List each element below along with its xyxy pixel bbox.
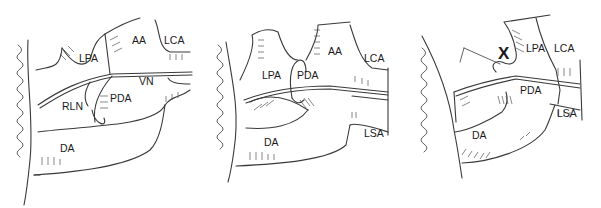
label-da: DA bbox=[60, 143, 75, 154]
label-aa: AA bbox=[328, 46, 342, 57]
label-lca: LCA bbox=[364, 53, 384, 64]
anatomy-sketch-3 bbox=[400, 0, 601, 208]
label-lpa: LPA bbox=[526, 43, 545, 54]
panel-2-illustration: AA LCA LPA PDA LSA DA bbox=[200, 0, 400, 208]
label-da: DA bbox=[472, 130, 487, 141]
anatomy-sketch-1 bbox=[0, 0, 200, 208]
label-aa: AA bbox=[132, 35, 146, 46]
label-rln: RLN bbox=[62, 101, 83, 112]
label-lca: LCA bbox=[164, 35, 184, 46]
label-lpa: LPA bbox=[79, 53, 98, 64]
label-lsa: LSA bbox=[557, 108, 577, 119]
panel-3-illustration: X LPA LCA PDA LSA DA bbox=[400, 0, 601, 208]
anatomy-sketch-2 bbox=[200, 0, 400, 208]
label-pda: PDA bbox=[297, 70, 319, 81]
label-lpa: LPA bbox=[262, 70, 281, 81]
panel-1-illustration: AA LCA LPA VN RLN PDA DA bbox=[0, 0, 200, 208]
label-da: DA bbox=[264, 137, 279, 148]
label-x: X bbox=[498, 45, 509, 62]
label-vn: VN bbox=[139, 76, 154, 87]
label-pda: PDA bbox=[520, 85, 542, 96]
label-pda: PDA bbox=[110, 93, 132, 104]
label-lca: LCA bbox=[554, 43, 574, 54]
label-lsa: LSA bbox=[364, 128, 384, 139]
